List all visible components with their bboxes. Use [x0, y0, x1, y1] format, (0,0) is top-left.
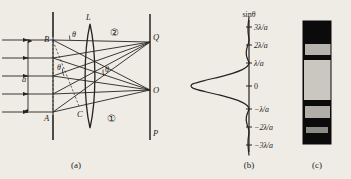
label-beam-2: ②: [110, 28, 119, 38]
tick-label-zero: 0: [254, 82, 258, 91]
label-lens: L: [85, 12, 91, 22]
caption-a: (a): [71, 160, 81, 170]
fringe-band-lower-secondary: [305, 106, 330, 118]
fringe-band-upper-secondary: [305, 44, 331, 55]
tick-label-3lambda-a: 3λ/a: [253, 23, 268, 32]
caption-c: (c): [312, 160, 322, 170]
label-slit-width: a: [22, 74, 26, 84]
beam-number-upper: ②: [110, 28, 119, 38]
label-theta-3: θ: [105, 65, 109, 74]
tick-label-2lambda-a: 2λ/a: [254, 41, 268, 50]
axis-ticks: [246, 27, 252, 145]
tick-label-neg-3lambda-a: −3λ/a: [254, 141, 273, 150]
fringe-band-central: [304, 60, 331, 100]
diffraction-photograph: [303, 21, 331, 144]
label-beam-1: ①: [107, 114, 116, 124]
label-focus-Q: Q: [153, 32, 159, 42]
caption-b: (b): [244, 160, 255, 170]
tick-label-lambda-a: λ/a: [253, 59, 264, 68]
label-screen-P: P: [152, 128, 158, 138]
label-B: B: [44, 34, 49, 44]
fringe-band-lower-tertiary: [306, 127, 328, 133]
label-C: C: [77, 109, 83, 119]
figure-canvas: a B A C: [0, 0, 351, 179]
label-theta-2: θ: [57, 63, 61, 72]
label-focus-O: O: [153, 85, 159, 95]
beam-number-lower: ①: [107, 114, 116, 124]
label-theta-1: θ: [72, 30, 76, 39]
tick-label-neg-lambda-a: −λ/a: [254, 105, 269, 114]
tick-label-neg-2lambda-a: −2λ/a: [254, 123, 273, 132]
label-A: A: [43, 113, 50, 123]
